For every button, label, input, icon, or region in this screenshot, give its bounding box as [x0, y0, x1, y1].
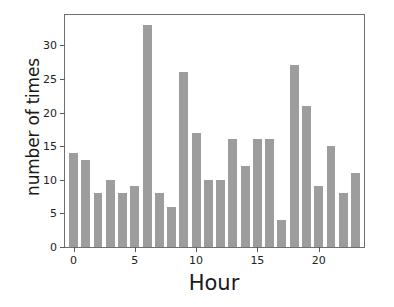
y-tick-mark [60, 79, 65, 80]
bar [179, 72, 188, 247]
x-tick-mark [257, 247, 258, 252]
bar [253, 139, 262, 247]
y-tick-mark [60, 213, 65, 214]
bar [106, 180, 115, 247]
bar [228, 139, 237, 247]
bar [204, 180, 213, 247]
bar [290, 65, 299, 247]
bar [143, 25, 152, 247]
y-tick-mark [60, 180, 65, 181]
y-tick-mark [60, 247, 65, 248]
x-tick-mark [319, 247, 320, 252]
y-tick-mark [60, 113, 65, 114]
y-tick-label: 30 [43, 39, 57, 52]
y-tick-mark [60, 45, 65, 46]
bar [265, 139, 274, 247]
bar [155, 193, 164, 247]
x-tick-label: 10 [189, 254, 203, 267]
bar [192, 133, 201, 247]
x-tick-label: 0 [70, 254, 77, 267]
y-axis-title: number of times [23, 17, 43, 237]
bar [69, 153, 78, 247]
bar [118, 193, 127, 247]
bar [167, 207, 176, 247]
bar [94, 193, 103, 247]
bar [216, 180, 225, 247]
bar [351, 173, 360, 247]
bar [241, 166, 250, 247]
bar [302, 106, 311, 247]
y-tick-label: 0 [50, 241, 57, 254]
plot-area: 051015202530 05101520 [64, 14, 365, 248]
y-tick-label: 5 [50, 207, 57, 220]
bar [327, 146, 336, 247]
x-tick-mark [196, 247, 197, 252]
x-tick-mark [74, 247, 75, 252]
y-tick-label: 20 [43, 106, 57, 119]
y-tick-label: 10 [43, 173, 57, 186]
y-tick-mark [60, 146, 65, 147]
x-tick-label: 5 [131, 254, 138, 267]
y-tick-label: 25 [43, 72, 57, 85]
bar-chart-figure: number of times 051015202530 05101520 Ho… [0, 0, 394, 307]
bar [81, 160, 90, 247]
bar [277, 220, 286, 247]
x-axis-title: Hour [64, 271, 364, 295]
x-tick-mark [135, 247, 136, 252]
x-tick-label: 15 [250, 254, 264, 267]
bar-series [65, 15, 364, 247]
x-tick-label: 20 [312, 254, 326, 267]
bar [314, 186, 323, 247]
bar [130, 186, 139, 247]
bar [339, 193, 348, 247]
y-tick-label: 15 [43, 140, 57, 153]
